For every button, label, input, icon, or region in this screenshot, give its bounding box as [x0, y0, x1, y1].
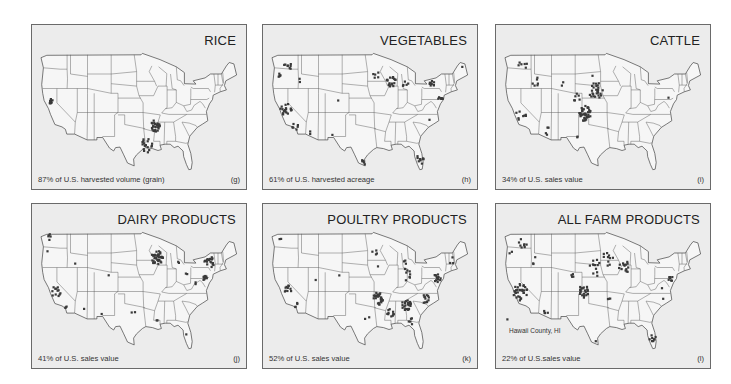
- panel-title: ALL FARM PRODUCTS: [558, 212, 700, 227]
- county-dot: [153, 126, 155, 128]
- county-dot: [375, 249, 377, 251]
- county-dot: [421, 163, 423, 165]
- county-dot: [598, 96, 600, 98]
- county-dot: [509, 252, 511, 254]
- us-map: [32, 25, 247, 190]
- county-dot: [392, 85, 394, 87]
- county-dot: [546, 134, 548, 136]
- county-dot: [278, 76, 280, 78]
- county-dot: [55, 293, 57, 295]
- county-dot: [430, 82, 432, 84]
- county-dot: [404, 268, 406, 270]
- county-dot: [416, 155, 418, 157]
- county-dot: [534, 85, 536, 87]
- county-dot: [401, 301, 403, 303]
- county-dot: [596, 275, 598, 277]
- county-dot: [209, 258, 211, 260]
- county-dot: [185, 273, 187, 275]
- county-dot: [377, 72, 379, 74]
- us-map: [496, 204, 711, 369]
- county-dot: [669, 276, 671, 278]
- county-dot: [151, 143, 153, 145]
- county-dot: [206, 261, 208, 263]
- county-dot: [523, 243, 525, 245]
- county-dot: [595, 340, 597, 342]
- county-dot: [667, 97, 669, 99]
- county-dot: [297, 126, 299, 128]
- county-dot: [521, 246, 523, 248]
- county-dot: [516, 289, 518, 291]
- county-dot: [59, 292, 61, 294]
- county-dot: [583, 295, 585, 297]
- county-dot: [405, 263, 407, 265]
- county-dot: [58, 289, 60, 291]
- county-dot: [525, 114, 527, 116]
- county-dot: [520, 297, 522, 299]
- county-dot: [420, 159, 422, 161]
- county-dot: [534, 256, 536, 258]
- county-dot: [593, 82, 595, 84]
- county-dot: [287, 65, 289, 67]
- county-dot: [51, 290, 53, 292]
- county-dot: [434, 280, 436, 282]
- county-dot: [402, 85, 404, 87]
- county-dot: [586, 116, 588, 118]
- county-dot: [517, 291, 519, 293]
- county-dot: [585, 119, 587, 121]
- county-dot: [155, 251, 157, 253]
- county-dot: [375, 253, 377, 255]
- county-dot: [375, 292, 377, 294]
- county-dot: [377, 295, 379, 297]
- county-dot: [386, 80, 388, 82]
- county-dot: [159, 260, 161, 262]
- county-dot: [561, 85, 563, 87]
- county-dot: [671, 276, 673, 278]
- county-dot: [515, 296, 517, 298]
- county-dot: [338, 274, 340, 276]
- map-panel-poultry: POULTRY PRODUCTS52% of U.S. sales value(…: [262, 203, 478, 369]
- county-dot: [671, 280, 673, 282]
- county-dot: [437, 273, 439, 275]
- county-dot: [368, 316, 370, 318]
- county-dot: [279, 108, 281, 110]
- county-dot: [392, 311, 394, 313]
- county-dot: [279, 238, 281, 240]
- county-dot: [157, 130, 159, 132]
- county-dot: [157, 263, 159, 265]
- county-dot: [145, 144, 147, 146]
- county-dot: [204, 275, 206, 277]
- county-dot: [517, 117, 519, 119]
- county-dot: [378, 302, 380, 304]
- county-dot: [579, 112, 581, 114]
- county-dot: [532, 83, 534, 85]
- panel-title: POULTRY PRODUCTS: [327, 212, 467, 227]
- county-dot: [514, 286, 516, 288]
- county-dot: [506, 318, 508, 320]
- county-dot: [387, 309, 389, 311]
- county-dot: [373, 297, 375, 299]
- county-dot: [131, 311, 133, 313]
- county-dot: [147, 138, 149, 140]
- county-dot: [147, 146, 149, 148]
- county-dot: [285, 287, 287, 289]
- panel-title: VEGETABLES: [380, 33, 467, 48]
- county-dot: [662, 298, 664, 300]
- county-dot: [290, 68, 292, 70]
- county-dot: [627, 266, 629, 268]
- county-dot: [524, 246, 526, 248]
- county-dot: [595, 83, 597, 85]
- map-panel-rice: RICE87% of U.S. harvested volume (grain)…: [31, 24, 247, 190]
- county-dot: [290, 108, 292, 110]
- county-dot: [651, 337, 653, 339]
- county-dot: [518, 64, 520, 66]
- county-dot: [519, 289, 521, 291]
- county-dot: [387, 312, 389, 314]
- county-dot: [381, 298, 383, 300]
- county-dot: [584, 289, 586, 291]
- county-dot: [157, 253, 159, 255]
- county-dot: [281, 106, 283, 108]
- county-dot: [537, 83, 539, 85]
- county-dot: [580, 114, 582, 116]
- county-dot: [430, 84, 432, 86]
- county-dot: [211, 256, 213, 258]
